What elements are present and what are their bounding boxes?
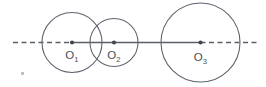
circle-1-center-dot [70, 40, 74, 44]
circle-1-center-label: O1 [65, 49, 79, 64]
geometry-figure-svg: O1 O2 O3 [0, 0, 266, 87]
circle-1-label-subscript: 1 [74, 55, 78, 64]
stray-artifact-mark [21, 72, 24, 75]
geometry-figure-canvas: O1 O2 O3 [0, 0, 266, 87]
circle-2-label-subscript: 2 [116, 55, 120, 64]
circle-2-center-label: O2 [107, 49, 121, 64]
circle-2-label-letter: O [107, 49, 116, 61]
circle-2-center-dot [112, 40, 116, 44]
circle-3-center-dot [198, 40, 202, 44]
circle-3-label-letter: O [194, 51, 203, 63]
circle-3-center-label: O3 [194, 51, 208, 66]
circle-1-label-letter: O [65, 49, 74, 61]
circle-3-label-subscript: 3 [203, 57, 207, 66]
